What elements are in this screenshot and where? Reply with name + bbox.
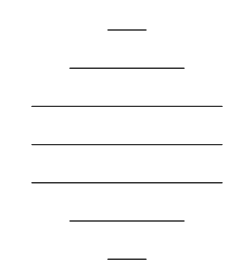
figure-canvas: [0, 0, 249, 279]
triangular-grid-diagram: [0, 0, 249, 279]
canvas-background: [0, 0, 249, 279]
